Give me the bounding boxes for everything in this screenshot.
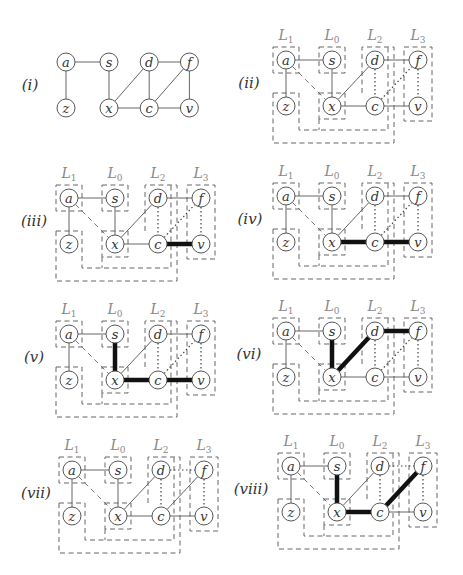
bfs-layer-figure: (i)asdfzxcv(ii)L1L0L2L3asdfzxcv(iii)L1L0…: [0, 0, 463, 575]
level-label-L3: L3: [195, 437, 211, 455]
level-label-L1: L1: [60, 301, 76, 319]
node-f: f: [414, 457, 432, 475]
svg-text:x: x: [111, 373, 119, 388]
svg-text:s: s: [329, 189, 336, 204]
edge-a-x: [75, 340, 108, 373]
node-v: v: [409, 368, 427, 386]
level-label-L3: L3: [409, 298, 425, 316]
edge-a-x: [292, 66, 325, 99]
edge-x-d: [124, 477, 155, 510]
node-a: a: [277, 187, 295, 205]
edge-x-d: [121, 341, 152, 374]
node-v: v: [409, 233, 427, 251]
svg-text:d: d: [154, 191, 162, 206]
node-s: s: [109, 461, 127, 479]
node-z: z: [57, 99, 75, 117]
svg-text:x: x: [328, 99, 336, 114]
svg-text:z: z: [62, 101, 70, 116]
svg-text:a: a: [68, 463, 76, 478]
panel-label: (i): [22, 76, 39, 94]
svg-text:a: a: [62, 55, 70, 70]
svg-text:c: c: [146, 101, 154, 116]
level-label-L2: L2: [149, 301, 165, 319]
node-c: c: [366, 97, 384, 115]
level-label-L0: L0: [323, 298, 339, 316]
panel-label: (ii): [238, 74, 259, 92]
node-d: d: [366, 322, 384, 340]
level-label-L0: L0: [106, 301, 122, 319]
node-z: z: [60, 235, 78, 253]
edge-c-f: [381, 67, 412, 100]
node-x: x: [109, 507, 127, 525]
svg-text:c: c: [157, 509, 165, 524]
node-d: d: [149, 325, 167, 343]
panel-label: (iii): [21, 212, 47, 230]
node-a: a: [277, 322, 295, 340]
svg-text:z: z: [282, 370, 290, 385]
svg-text:v: v: [186, 101, 194, 116]
svg-text:x: x: [114, 509, 122, 524]
svg-text:c: c: [371, 99, 379, 114]
node-x: x: [323, 97, 341, 115]
svg-text:z: z: [65, 373, 73, 388]
svg-text:z: z: [282, 99, 290, 114]
svg-text:s: s: [112, 327, 119, 342]
level-label-L1: L1: [282, 433, 298, 451]
svg-text:c: c: [371, 235, 379, 250]
node-c: c: [149, 235, 167, 253]
panel-1: (i)asdfzxcv: [22, 53, 199, 117]
level-label-L0: L0: [106, 165, 122, 183]
svg-text:x: x: [111, 237, 119, 252]
level-label-L2: L2: [149, 165, 165, 183]
node-c: c: [366, 233, 384, 251]
level-label-L3: L3: [409, 27, 425, 45]
node-f: f: [192, 325, 210, 343]
edge-a-x: [75, 204, 108, 237]
node-c: c: [140, 99, 158, 117]
level-label-L0: L0: [328, 433, 344, 451]
svg-text:z: z: [65, 237, 73, 252]
node-f: f: [180, 53, 198, 71]
svg-text:s: s: [329, 53, 336, 68]
level-label-L2: L2: [371, 433, 387, 451]
node-s: s: [323, 187, 341, 205]
svg-text:s: s: [112, 191, 119, 206]
edge-c-f: [381, 203, 412, 236]
level-label-L2: L2: [366, 163, 382, 181]
node-s: s: [328, 457, 346, 475]
svg-text:v: v: [414, 370, 422, 385]
node-x: x: [328, 503, 346, 521]
node-x: x: [106, 371, 124, 389]
svg-text:s: s: [334, 459, 341, 474]
level-label-L0: L0: [323, 27, 339, 45]
svg-text:d: d: [145, 55, 153, 70]
svg-text:a: a: [287, 459, 295, 474]
svg-text:d: d: [157, 463, 165, 478]
svg-text:v: v: [200, 509, 208, 524]
node-f: f: [192, 189, 210, 207]
svg-text:a: a: [282, 53, 290, 68]
svg-text:z: z: [68, 509, 76, 524]
svg-text:s: s: [106, 55, 113, 70]
node-s: s: [100, 53, 118, 71]
edge-c-f: [386, 473, 417, 506]
node-z: z: [60, 371, 78, 389]
panel-5: (v)L1L0L2L3asdfzxcv: [24, 301, 215, 417]
node-z: z: [63, 507, 81, 525]
node-s: s: [106, 189, 124, 207]
level-label-L2: L2: [366, 27, 382, 45]
svg-text:z: z: [287, 505, 295, 520]
svg-text:a: a: [65, 191, 73, 206]
node-d: d: [366, 51, 384, 69]
node-z: z: [277, 233, 295, 251]
node-s: s: [106, 325, 124, 343]
panel-8: (viii)L1L0L2L3asdfzxcv: [234, 433, 437, 549]
level-label-L1: L1: [277, 163, 293, 181]
node-c: c: [149, 371, 167, 389]
edge-x-d: [115, 69, 143, 101]
node-x: x: [323, 233, 341, 251]
svg-text:v: v: [414, 99, 422, 114]
node-f: f: [195, 461, 213, 479]
level-label-L3: L3: [409, 163, 425, 181]
node-z: z: [277, 97, 295, 115]
